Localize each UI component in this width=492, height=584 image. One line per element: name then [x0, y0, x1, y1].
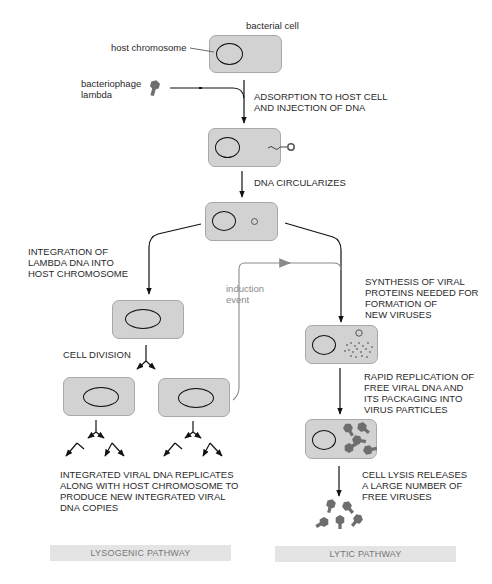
bacteriophage-icon: [148, 79, 161, 97]
induction-path: [233, 263, 341, 400]
viral-dna-circle: [356, 330, 362, 336]
phage-head-empty: [288, 144, 294, 150]
host-chromosome-pointer: [190, 48, 214, 52]
viral-proteins-icon: [344, 342, 373, 358]
integration-arrow: [149, 224, 201, 294]
free-viruses-icon: [314, 498, 364, 530]
lytic-arrow: [285, 223, 341, 322]
phage-path-arrow: [170, 88, 244, 98]
packaged-viruses-icon: [342, 420, 378, 455]
injected-dna: [268, 147, 287, 150]
diagram-arrows: [0, 0, 492, 584]
